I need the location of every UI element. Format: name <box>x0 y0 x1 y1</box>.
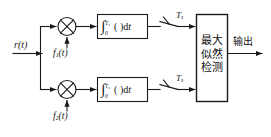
decision-line-2: 似然 <box>197 48 227 62</box>
sampler-upper-arm <box>160 22 178 27</box>
carrier-label-f2: f2(t) <box>53 112 68 122</box>
output-label: 输出 <box>233 37 253 47</box>
sampler-label-upper: Ts <box>176 11 183 21</box>
sampler-lower-arm <box>160 85 178 90</box>
decision-block-label: 最大 似然 检测 <box>197 34 227 75</box>
integrator-formula-upper: ∫Ts0( )dt <box>101 17 131 35</box>
diagram-vector-layer <box>0 0 271 137</box>
carrier-label-f1: f1(t) <box>53 49 68 59</box>
decision-line-1: 最大 <box>197 34 227 48</box>
block-diagram-canvas: r(t) f1(t) f2(t) ∫Ts0( )dt ∫Ts0( )dt Ts … <box>0 0 271 137</box>
sampler-label-lower: Ts <box>176 74 183 84</box>
input-signal-label: r(t) <box>14 40 27 50</box>
integrator-formula-lower: ∫Ts0( )dt <box>101 80 131 98</box>
decision-line-3: 检测 <box>197 61 227 75</box>
